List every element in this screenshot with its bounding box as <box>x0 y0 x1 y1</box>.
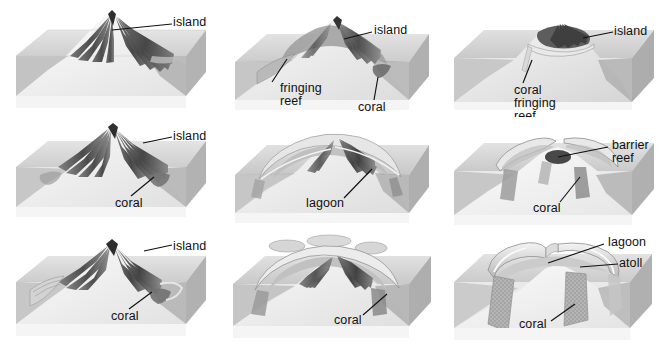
panel-9-label-atoll: atoll <box>619 257 642 271</box>
panel-8-reef-ring-closes: coral <box>221 232 442 352</box>
panel-2-label-coral: coral <box>358 101 386 115</box>
panel-9-label-lagoon: lagoon <box>608 236 646 250</box>
panel-4-label-island: island <box>173 130 206 144</box>
panel-6-label-coral: coral <box>533 202 561 216</box>
panel-1-volcanic-island: island <box>0 0 221 117</box>
panel-7-label-island: island <box>173 240 206 254</box>
panel-5-illustration <box>221 117 442 232</box>
panel-2-illustration <box>221 0 442 117</box>
panel-3-label-coral-fringing-reef: coral fringing reef <box>514 84 556 117</box>
panel-3-label-island: island <box>614 25 647 39</box>
panel-6-barrier-reef: barrier reef coral <box>442 117 663 232</box>
panel-9-illustration <box>442 232 663 352</box>
panel-2-label-island: island <box>374 24 407 38</box>
panel-6-label-barrier-reef: barrier reef <box>612 139 649 165</box>
panel-5-lagoon-develops: lagoon <box>221 117 442 232</box>
panel-7-label-coral: coral <box>111 310 139 324</box>
figure-grid: island <box>0 0 663 352</box>
panel-4-island-subsides: island coral <box>0 117 221 232</box>
panel-2-label-fringing-reef: fringing reef <box>280 82 322 108</box>
panel-5-label-lagoon: lagoon <box>306 197 344 211</box>
panel-8-label-coral: coral <box>334 314 362 328</box>
panel-4-label-coral: coral <box>115 197 143 211</box>
panel-9-atoll: lagoon atoll coral <box>442 232 663 352</box>
panel-9-label-coral: coral <box>519 318 547 332</box>
panel-2-fringing-reef: island fringing reef coral <box>221 0 442 117</box>
panel-8-illustration <box>221 232 442 352</box>
panel-7-island-further-subsides: island coral <box>0 232 221 352</box>
panel-3-coral-fringing-reef: island coral fringing reef <box>442 0 663 117</box>
panel-1-label-island: island <box>173 16 206 30</box>
